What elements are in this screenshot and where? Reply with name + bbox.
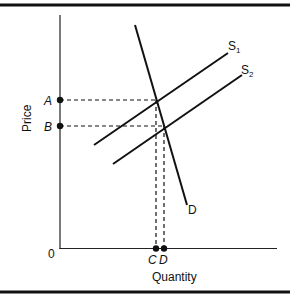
label-a: A bbox=[43, 94, 52, 108]
demand-label: D bbox=[188, 203, 197, 217]
x-axis-label: Quantity bbox=[152, 270, 197, 284]
point-c bbox=[153, 245, 159, 251]
point-a bbox=[57, 97, 63, 103]
label-b: B bbox=[44, 120, 52, 134]
point-d bbox=[161, 245, 167, 251]
s2-label: S2 bbox=[241, 63, 254, 79]
demand-curve bbox=[135, 25, 187, 205]
point-b bbox=[57, 123, 63, 129]
supply-demand-diagram: A B C D 0 Quantity Price D S1 S2 bbox=[0, 0, 290, 299]
origin-label: 0 bbox=[48, 247, 55, 261]
label-d-quantity: D bbox=[159, 253, 168, 267]
s1-label: S1 bbox=[228, 39, 241, 55]
label-c: C bbox=[148, 253, 157, 267]
y-axis-label: Price bbox=[20, 104, 34, 132]
